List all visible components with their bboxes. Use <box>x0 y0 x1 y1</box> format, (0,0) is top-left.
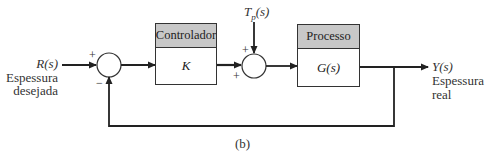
summing-junction-2 <box>242 54 266 78</box>
sum2-top-plus-sign: + <box>242 44 249 56</box>
controller-transfer: K <box>156 48 216 84</box>
summing-junction-1 <box>97 53 121 77</box>
sum1-minus-sign: − <box>96 77 103 89</box>
input-label-line2: desejada <box>0 84 58 98</box>
output-label-line2: real <box>432 88 451 102</box>
process-title: Processo <box>298 25 359 49</box>
input-symbol: R(s) <box>20 57 58 71</box>
sum1-plus-sign: + <box>89 49 96 61</box>
disturbance-suffix: (s) <box>256 4 270 19</box>
figure-caption: (b) <box>235 137 250 151</box>
sum2-left-plus-sign: + <box>233 70 240 82</box>
disturbance-label: Tp(s) <box>244 5 269 24</box>
process-block: Processo G(s) <box>297 24 360 87</box>
controller-title: Controlador <box>156 24 216 48</box>
output-label-line1: Espessura <box>432 74 484 88</box>
output-symbol: Y(s) <box>432 60 453 74</box>
process-transfer: G(s) <box>298 49 359 86</box>
controller-block: Controlador K <box>155 23 217 85</box>
